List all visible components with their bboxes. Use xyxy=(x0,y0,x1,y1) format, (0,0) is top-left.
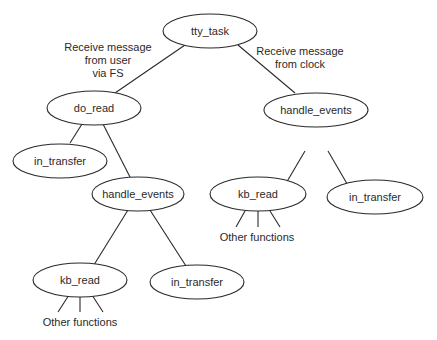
diagram-svg: tty_task do_read handle_events in_transf… xyxy=(0,0,437,340)
node-handle-events-right: handle_events xyxy=(264,93,368,127)
node-label: kb_read xyxy=(60,274,100,286)
call-tree-diagram: tty_task do_read handle_events in_transf… xyxy=(0,0,437,340)
node-kb-read-left: kb_read xyxy=(33,263,127,297)
node-in-transfer-right: in_transfer xyxy=(327,180,423,214)
edge-label-line: Receive message xyxy=(256,45,343,57)
edge-label-left: Receive message from user via FS xyxy=(64,41,151,79)
node-in-transfer-1: in_transfer xyxy=(13,144,107,178)
node-label: kb_read xyxy=(238,188,278,200)
edge-kb-read-left-other-1 xyxy=(58,295,69,312)
node-label: handle_events xyxy=(102,188,174,200)
node-label: handle_events xyxy=(280,104,352,116)
edge-kb-read-other-3 xyxy=(270,211,280,227)
node-in-transfer-left: in_transfer xyxy=(150,265,244,299)
node-label: tty_task xyxy=(191,25,229,37)
node-label: in_transfer xyxy=(171,276,223,288)
other-functions-label-right: Other functions xyxy=(220,231,295,243)
node-label: do_read xyxy=(74,102,114,114)
node-tty-task: tty_task xyxy=(163,14,257,48)
edge-label-line: from clock xyxy=(275,58,326,70)
node-label: in_transfer xyxy=(349,191,401,203)
edge-label-line: Receive message xyxy=(64,41,151,53)
edge-label-line: from user xyxy=(85,54,132,66)
edge-kb-read-other-1 xyxy=(236,211,245,227)
edge-do-read-to-handle-events xyxy=(103,124,130,177)
node-label: in_transfer xyxy=(34,155,86,167)
node-handle-events-left: handle_events xyxy=(92,177,184,211)
edge-kb-read-left-other-3 xyxy=(92,295,103,312)
node-do-read: do_read xyxy=(47,91,141,125)
edge-handle-events-to-in-transfer-left xyxy=(150,210,186,266)
node-kb-read-right: kb_read xyxy=(210,177,306,211)
edge-handle-events-to-kb-read-left xyxy=(92,210,128,268)
edge-do-read-to-in-transfer xyxy=(70,124,82,143)
edge-label-right: Receive message from clock xyxy=(256,45,343,70)
edge-label-line: via FS xyxy=(92,67,123,79)
other-functions-label-left: Other functions xyxy=(43,316,118,328)
